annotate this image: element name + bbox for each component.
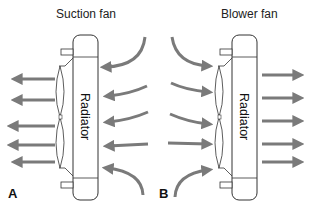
diagram-canvas bbox=[0, 0, 318, 207]
panel-b-radiator-label: Radiator bbox=[237, 93, 251, 139]
panel-b-inflow-arrows bbox=[168, 37, 208, 197]
panel-a-inflow-arrows bbox=[105, 37, 148, 195]
panel-b-fan bbox=[215, 58, 232, 176]
panel-b-outflow-arrows bbox=[262, 75, 299, 162]
panel-b-title: Blower fan bbox=[221, 7, 278, 21]
panel-a-fan bbox=[56, 58, 73, 176]
panel-b-label: B bbox=[159, 186, 168, 201]
panel-a-radiator-label: Radiator bbox=[78, 93, 92, 139]
panel-a-outflow-arrows bbox=[12, 79, 55, 162]
panel-a-title: Suction fan bbox=[56, 7, 116, 21]
panel-a-label: A bbox=[8, 186, 17, 201]
